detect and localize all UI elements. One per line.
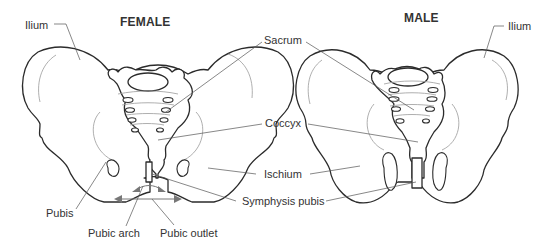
female-title: FEMALE [120,16,171,28]
label-ischium: Ischium [264,169,302,180]
female-pelvis [23,47,294,203]
label-ilium-right: Ilium [508,21,531,32]
male-pelvis [296,50,518,203]
label-ilium-left: Ilium [25,20,48,31]
label-pubis: Pubis [46,208,74,219]
label-symphysis-pubis: Symphysis pubis [242,196,325,207]
label-sacrum: Sacrum [264,35,302,46]
male-title: MALE [404,12,439,24]
label-pubic-arch: Pubic arch [88,228,140,239]
label-pubic-outlet: Pubic outlet [160,228,217,239]
label-coccyx: Coccyx [265,118,301,129]
